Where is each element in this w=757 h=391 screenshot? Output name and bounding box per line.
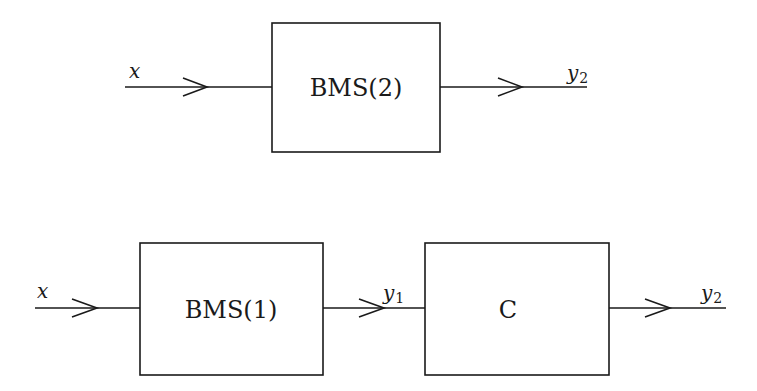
bottom-block1-label: BMS(1)	[185, 296, 278, 324]
bottom-output-label: y2	[700, 281, 722, 306]
diagram-canvas: x BMS(2) y2 x BMS(1) y1 C y2	[0, 0, 757, 391]
top-output-label: y2	[566, 61, 588, 86]
top-block-label: BMS(2)	[310, 74, 403, 102]
bottom-block2-label: C	[499, 296, 517, 324]
bottom-input-label: x	[37, 279, 48, 303]
bottom-mid-label: y1	[382, 281, 404, 306]
top-input-label: x	[129, 59, 140, 83]
